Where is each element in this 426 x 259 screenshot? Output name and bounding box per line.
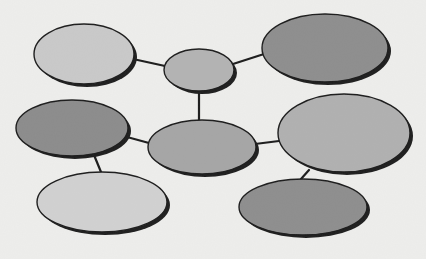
bubble-map-diagram [0,0,426,259]
bubble-ellipse [37,172,167,232]
bubble-ellipse [34,24,134,84]
bubble-ellipse [262,14,388,82]
bubble-ellipse [278,94,410,172]
bubble-ellipse [239,179,367,235]
bubble-ellipse [16,100,128,156]
bubble-ellipse [164,49,234,91]
bubble-ellipse [148,120,256,174]
